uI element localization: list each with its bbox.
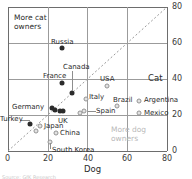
point-china: [53, 131, 58, 136]
leader-spain: [88, 111, 96, 112]
note-dog-line2: owners: [111, 134, 138, 143]
label-southkorea: South Korea: [52, 146, 94, 154]
label-france: France: [43, 72, 66, 80]
label-mexico: Mexico: [144, 109, 168, 117]
leader-southkorea: [50, 143, 51, 149]
point-russia: [59, 46, 64, 51]
scatter-chart: Russia France Canada USA Italy Germany U…: [0, 0, 192, 179]
note-cat-line1: More cat: [14, 13, 47, 22]
ytick-40: 40: [172, 74, 182, 83]
label-argentina: Argentina: [144, 96, 178, 104]
note-dog-line1: More dog: [111, 125, 146, 134]
plot-area: Russia France Canada USA Italy Germany U…: [8, 7, 167, 151]
point-france: [59, 80, 64, 85]
xtick-0: 0: [5, 154, 10, 163]
point-argentina: [137, 98, 142, 103]
label-russia: Russia: [51, 38, 74, 46]
label-brazil: Brazil: [113, 96, 133, 104]
label-italy: Italy: [89, 93, 104, 101]
point-canada: [69, 91, 74, 96]
y-axis-title: Cat: [148, 73, 162, 83]
label-usa: USA: [100, 75, 115, 83]
ytick-20: 20: [172, 110, 182, 119]
point-spain-b: [77, 111, 82, 116]
note-more-cat-owners: More cat owners: [14, 13, 47, 31]
label-turkey: Turkey: [0, 115, 23, 123]
point-usa: [105, 84, 110, 89]
x-axis-title: Dog: [84, 164, 101, 174]
label-canada: Canada: [63, 63, 90, 71]
note-more-dog-owners: More dog owners: [111, 125, 146, 143]
point-japan-b: [33, 129, 38, 134]
point-mexico: [137, 111, 142, 116]
xtick-40: 40: [83, 154, 93, 163]
ytick-80: 80: [172, 2, 182, 11]
label-germany: Germany: [12, 103, 44, 111]
point-italy: [83, 96, 88, 101]
xtick-60: 60: [122, 154, 132, 163]
xtick-20: 20: [43, 154, 53, 163]
point-japan: [37, 123, 42, 128]
label-china: China: [60, 129, 80, 137]
leader-canada: [72, 71, 73, 91]
source-caption: Source: GfK Research: [2, 174, 56, 179]
note-cat-line2: owners: [14, 22, 41, 31]
gridline-x-80: [167, 7, 168, 151]
xtick-80: 80: [162, 154, 172, 163]
ytick-60: 60: [172, 38, 182, 47]
label-spain: Spain: [96, 107, 116, 115]
ytick-0: 0: [172, 146, 177, 155]
point-uk-b: [61, 109, 66, 114]
point-turkey: [27, 122, 32, 127]
